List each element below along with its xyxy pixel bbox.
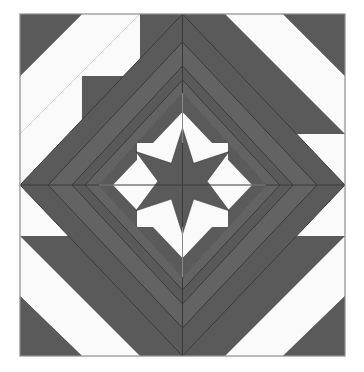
quilt-block-artwork xyxy=(0,0,364,372)
quilt-block-group xyxy=(20,14,345,356)
quilt-block-page: Quilt Block Pattern geometric-quilt-bloc… xyxy=(0,0,364,372)
